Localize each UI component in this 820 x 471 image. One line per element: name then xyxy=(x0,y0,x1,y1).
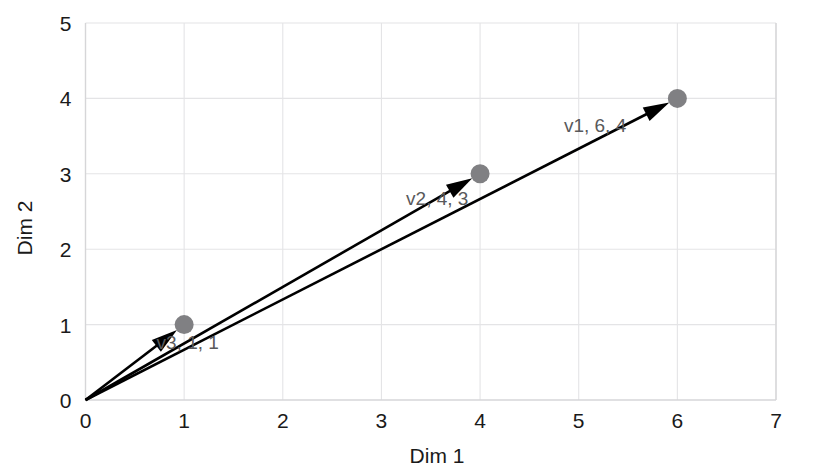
y-tick-2: 2 xyxy=(60,238,72,261)
y-tick-4: 4 xyxy=(60,87,72,110)
x-tick-1: 1 xyxy=(178,409,190,432)
vector-arrows xyxy=(86,102,670,400)
x-tick-5: 5 xyxy=(573,409,585,432)
y-tick-1: 1 xyxy=(60,314,72,337)
horizontal-gridlines xyxy=(86,23,777,325)
endpoint-dot-v3 xyxy=(175,315,194,334)
y-axis-title: Dim 2 xyxy=(13,201,36,256)
vector-plot-figure: v1, 6, 4v2, 4, 3v3, 1, 1 01234567 012345… xyxy=(0,0,820,471)
x-tick-7: 7 xyxy=(770,409,782,432)
point-label-v1: v1, 6, 4 xyxy=(564,115,627,136)
y-axis-tick-labels: 012345 xyxy=(60,12,72,412)
arrowhead-v1 xyxy=(643,102,670,120)
x-tick-6: 6 xyxy=(672,409,684,432)
vector-shaft-v3 xyxy=(86,343,160,400)
endpoint-dot-v1 xyxy=(668,89,687,108)
x-tick-4: 4 xyxy=(474,409,486,432)
vector-shaft-v2 xyxy=(86,189,454,400)
y-tick-0: 0 xyxy=(60,389,72,412)
point-label-v3: v3, 1, 1 xyxy=(157,332,219,353)
vertical-gridlines xyxy=(184,23,776,400)
y-tick-5: 5 xyxy=(60,12,72,35)
y-tick-3: 3 xyxy=(60,163,72,186)
plot-canvas: v1, 6, 4v2, 4, 3v3, 1, 1 01234567 012345… xyxy=(0,0,820,471)
point-label-v2: v2, 4, 3 xyxy=(406,188,468,209)
endpoint-dot-v2 xyxy=(471,164,490,183)
x-tick-3: 3 xyxy=(376,409,388,432)
x-tick-2: 2 xyxy=(277,409,289,432)
x-axis-title: Dim 1 xyxy=(410,444,465,467)
x-tick-0: 0 xyxy=(80,409,92,432)
x-axis-tick-labels: 01234567 xyxy=(80,409,782,432)
vector-shaft-v1 xyxy=(86,112,650,400)
